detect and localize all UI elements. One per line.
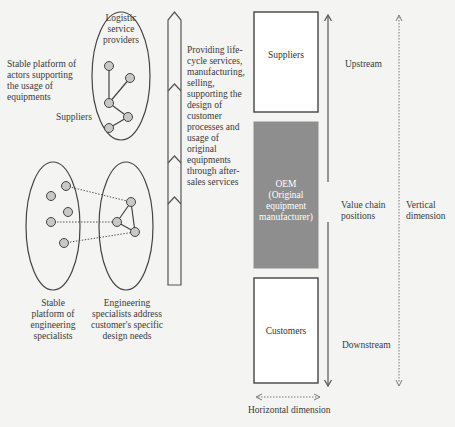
- vertical-dimension-label: Vertical dimension: [406, 200, 446, 222]
- oem-box-label: OEM (Original equipment manufacturer): [252, 179, 320, 223]
- process-arrow: [168, 12, 181, 285]
- horizontal-dimension-arrow: [256, 394, 320, 400]
- horizontal-dimension-label: Horizontal dimension: [248, 405, 331, 416]
- suppliers-box-label: Suppliers: [254, 50, 318, 61]
- downstream-label: Downstream: [342, 340, 391, 351]
- upstream-label: Upstream: [345, 59, 382, 70]
- stable-platform-actors-label: Stable platform of actors supporting the…: [7, 59, 76, 103]
- logistic-title: Logistic service providers: [98, 13, 144, 46]
- engineering-specialists-label: Engineering specialists address customer…: [84, 298, 170, 342]
- bottom-clusters: [26, 162, 153, 290]
- process-description: Providing life- cycle services, manufact…: [187, 45, 245, 188]
- value-chain-arrow: [325, 15, 332, 386]
- vertical-dimension-arrow: [396, 15, 402, 386]
- value-chain-positions-label: Value chain positions: [341, 200, 386, 222]
- suppliers-node-label: Suppliers: [56, 112, 92, 123]
- customers-box-label: Customers: [254, 326, 318, 337]
- engineering-platform-label: Stable platform of engineering specialis…: [20, 298, 86, 342]
